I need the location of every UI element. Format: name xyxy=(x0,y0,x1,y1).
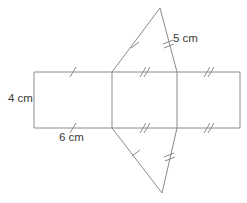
top-triangle-left-edge xyxy=(112,8,160,72)
bottom-triangle-right-edge xyxy=(162,128,177,193)
rectangle-faces-group xyxy=(34,72,240,128)
double-tick-mark xyxy=(163,40,173,44)
top-triangle-face xyxy=(112,8,177,72)
height-label: 4 cm xyxy=(8,92,33,104)
slant-label: 5 cm xyxy=(173,32,198,44)
double-tick-mark xyxy=(164,153,174,157)
triangular-prism-net-diagram: 4 cm 6 cm 5 cm xyxy=(0,0,247,203)
bottom-triangle-left-edge xyxy=(112,128,162,193)
double-tick-mark xyxy=(164,44,174,48)
single-tick-mark xyxy=(132,150,140,156)
base-label: 6 cm xyxy=(59,131,84,143)
geometry-figure: 4 cm 6 cm 5 cm xyxy=(0,0,247,203)
